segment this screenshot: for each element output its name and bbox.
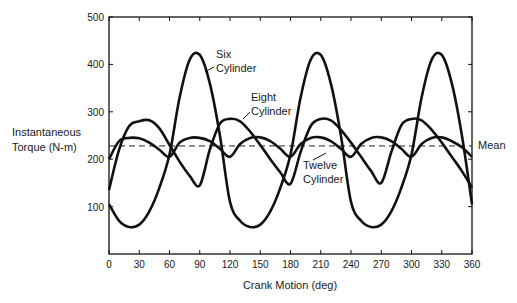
- x-tick-label: 60: [164, 259, 176, 270]
- twelve-cylinder-label-line-2: Cylinder: [303, 173, 344, 185]
- x-tick-label: 270: [373, 259, 390, 270]
- x-tick-label: 360: [464, 259, 481, 270]
- y-tick-label: 100: [87, 202, 104, 213]
- y-tick-label: 200: [87, 154, 104, 165]
- eight-cylinder-label-line-1: Eight: [251, 91, 276, 103]
- x-axis-title: Crank Motion (deg): [243, 279, 337, 291]
- six-cylinder-line: [109, 53, 472, 227]
- x-tick-label: 30: [134, 259, 146, 270]
- y-axis-title-line-1: Instantaneous: [12, 126, 82, 138]
- x-tick-label: 300: [403, 259, 420, 270]
- mean-label: Mean: [478, 139, 506, 151]
- twelve-cylinder-label-line-1: Twelve: [303, 159, 337, 171]
- x-tick-label: 180: [282, 259, 299, 270]
- x-tick-label: 90: [194, 259, 206, 270]
- y-tick-label: 300: [87, 107, 104, 118]
- y-tick-label: 400: [87, 59, 104, 70]
- y-axis-title-line-2: Torque (N-m): [12, 141, 77, 153]
- six-cylinder-label-line-1: Six: [216, 48, 232, 60]
- eight-cylinder-leader: [243, 112, 250, 119]
- x-tick-label: 0: [106, 259, 112, 270]
- eight-cylinder-label-line-2: Cylinder: [251, 105, 292, 117]
- x-tick-label: 210: [312, 259, 329, 270]
- series-group: [109, 53, 472, 227]
- six-cylinder-label-line-2: Cylinder: [216, 62, 257, 74]
- torque-chart: 0306090120150180210240270300330360100200…: [0, 0, 517, 303]
- y-tick-label: 500: [87, 12, 104, 23]
- x-tick-label: 330: [433, 259, 450, 270]
- x-tick-label: 120: [222, 259, 239, 270]
- x-tick-label: 240: [343, 259, 360, 270]
- x-tick-label: 150: [252, 259, 269, 270]
